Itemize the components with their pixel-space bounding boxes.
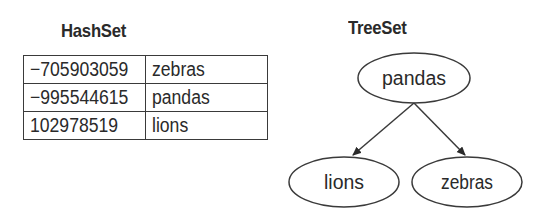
- svg-text:lions: lions: [324, 171, 364, 193]
- left-node: lions: [289, 157, 399, 207]
- svg-text:zebras: zebras: [441, 171, 493, 193]
- right-node: zebras: [412, 157, 522, 207]
- edge-right-arrow: [414, 103, 465, 155]
- root-node: pandas: [358, 53, 470, 103]
- svg-text:pandas: pandas: [382, 67, 446, 89]
- edge-left-arrow: [353, 103, 414, 155]
- treeset-diagram: pandas lions zebras: [0, 0, 545, 223]
